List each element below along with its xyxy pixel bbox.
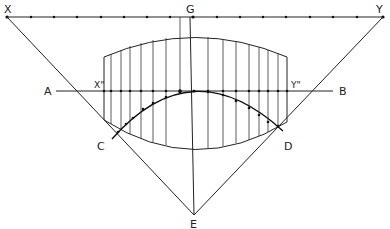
label-a: A bbox=[44, 85, 52, 98]
line-g-e bbox=[190, 17, 194, 215]
label-g: G bbox=[186, 3, 195, 16]
line-y-e bbox=[194, 17, 383, 215]
label-x: X bbox=[4, 3, 12, 16]
label-d: D bbox=[284, 140, 292, 153]
lens-top-arc bbox=[104, 38, 287, 58]
top-line-xy bbox=[5, 15, 384, 18]
label-e: E bbox=[190, 218, 197, 229]
curve-c-d bbox=[112, 91, 283, 139]
label-x-double-prime: X" bbox=[94, 80, 104, 90]
construction-diagram: X Y G A B X" Y" C D E bbox=[0, 0, 390, 229]
label-b: B bbox=[339, 85, 347, 98]
label-c: C bbox=[97, 140, 105, 153]
label-y-double-prime: Y" bbox=[290, 80, 301, 90]
lens-hatching bbox=[111, 37, 278, 148]
label-y: Y bbox=[375, 3, 383, 16]
lens-bottom-arc bbox=[104, 120, 287, 150]
